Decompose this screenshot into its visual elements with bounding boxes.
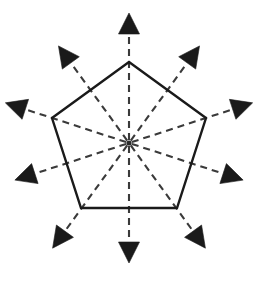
ray-vertex-n-arrowhead bbox=[119, 13, 140, 34]
ray-mid-ese-arrowhead bbox=[220, 164, 243, 184]
ray-vertex-wnw-arrowhead bbox=[5, 99, 28, 119]
ray-mid-wsw-arrowhead bbox=[15, 164, 38, 184]
ray-mid-ese bbox=[132, 144, 223, 174]
ray-mid-nw-arrowhead bbox=[58, 46, 79, 69]
ray-mid-nw bbox=[71, 63, 127, 141]
center-point-layer bbox=[126, 140, 131, 145]
center-point bbox=[126, 140, 131, 145]
figure-container bbox=[0, 0, 272, 291]
ray-mid-ne bbox=[131, 63, 187, 141]
ray-mid-wsw bbox=[35, 144, 126, 174]
ray-vertex-ene bbox=[132, 109, 233, 142]
ray-vertex-wnw bbox=[25, 109, 126, 142]
ray-vertex-ssw-arrowhead bbox=[53, 225, 74, 248]
dashed-rays-layer bbox=[25, 34, 232, 242]
ray-mid-s-arrowhead bbox=[119, 242, 140, 263]
ray-vertex-ene-arrowhead bbox=[229, 99, 252, 119]
ray-mid-ne-arrowhead bbox=[179, 46, 200, 69]
ray-vertex-sse-arrowhead bbox=[185, 225, 206, 248]
pentagon-arrows-diagram bbox=[0, 0, 272, 291]
